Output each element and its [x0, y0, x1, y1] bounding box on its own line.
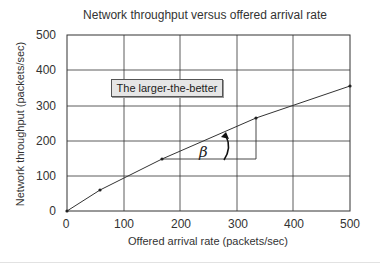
data-points — [65, 84, 351, 212]
plot-frame — [67, 35, 350, 211]
curved-arrow-icon — [224, 136, 229, 160]
svg-text:100: 100 — [114, 217, 134, 231]
x-axis-label: Offered arrival rate (packets/sec) — [128, 235, 288, 247]
svg-text:500: 500 — [36, 28, 56, 42]
svg-text:200: 200 — [36, 134, 56, 148]
svg-text:100: 100 — [36, 169, 56, 183]
svg-text:500: 500 — [340, 217, 360, 231]
svg-text:0: 0 — [49, 204, 56, 218]
callout-box: The larger-the-better — [111, 79, 223, 97]
svg-text:300: 300 — [36, 99, 56, 113]
svg-text:400: 400 — [36, 63, 56, 77]
y-axis-label: Network throughput (packets/sec) — [14, 42, 26, 206]
svg-text:0: 0 — [63, 217, 70, 231]
gridlines — [67, 35, 350, 211]
beta-label: β — [198, 143, 208, 161]
svg-text:400: 400 — [284, 217, 304, 231]
x-axis-ticks: 0 100 200 300 400 500 — [63, 217, 361, 231]
svg-text:200: 200 — [171, 217, 191, 231]
bottom-divider — [0, 262, 380, 263]
y-axis-ticks: 0 100 200 300 400 500 — [36, 28, 56, 218]
svg-text:300: 300 — [228, 217, 248, 231]
chart-plot: 0 100 200 300 400 500 0 100 200 300 400 … — [0, 0, 380, 266]
throughput-line — [67, 86, 350, 211]
